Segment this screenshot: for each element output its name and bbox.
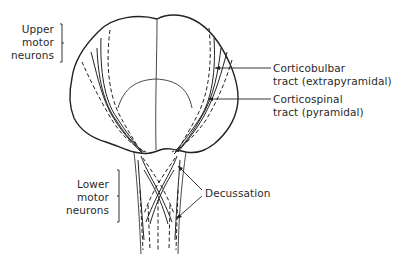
lower-motor-label-line2: motor [77,191,110,203]
decussation-label: Decussation [205,187,271,199]
decussation-annotation: Decussation [176,166,271,219]
corticobulbar-annotation: Corticobulbar tract (extrapyramidal) [215,62,392,87]
decussation-crossings [138,156,180,250]
upper-bracket [60,24,64,62]
brainstem-outline [134,152,186,254]
lower-motor-label-line3: neurons [66,204,109,216]
lower-motor-label-line1: Lower [77,178,110,190]
corticospinal-label-line1: Corticospinal [273,93,343,105]
corticobulbar-label-line2: tract (extrapyramidal) [273,75,392,87]
corticobulbar-label-line1: Corticobulbar [273,62,346,74]
upper-motor-label-line3: neurons [11,49,54,61]
upper-motor-neurons-annotation: Upper motor neurons [11,23,64,62]
lower-motor-neurons-annotation: Lower motor neurons [66,170,119,222]
upper-motor-label-line2: motor [22,36,55,48]
corticospinal-annotation: Corticospinal tract (pyramidal) [208,93,364,118]
corticospinal-label-line2: tract (pyramidal) [273,106,364,118]
motor-pathway-diagram: Upper motor neurons Lower motor neurons … [0,0,397,265]
lower-bracket [117,170,119,222]
upper-motor-label-line1: Upper [22,23,55,35]
